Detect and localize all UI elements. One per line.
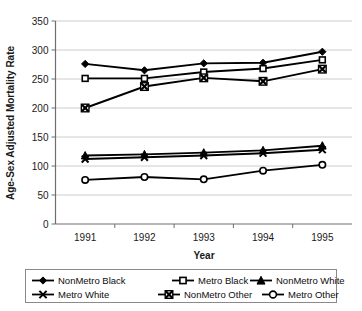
data-point-marker-open-circle <box>270 291 277 298</box>
data-point-marker-open-circle <box>260 167 266 173</box>
data-point-marker-open-circle <box>201 176 207 182</box>
y-tick-label: 300 <box>32 45 49 56</box>
legend-label: Metro White <box>58 289 109 300</box>
x-tick-label: 1994 <box>252 232 275 243</box>
data-point-marker-open-circle <box>141 174 147 180</box>
legend-label: Metro Other <box>288 289 339 300</box>
data-point-marker-open-square <box>319 57 325 63</box>
data-point-marker-boxed-x <box>81 104 89 112</box>
legend-label: Metro Black <box>198 275 248 286</box>
data-point-marker-boxed-x <box>259 78 267 86</box>
y-tick-label: 0 <box>43 219 49 230</box>
chart-canvas: 050100150200250300350 199119921993199419… <box>0 0 362 311</box>
x-axis-title: Year <box>193 250 214 261</box>
data-point-marker-open-circle <box>82 177 88 183</box>
legend-label: NonMetro Black <box>58 275 126 286</box>
y-tick-label: 200 <box>32 103 49 114</box>
data-point-marker-open-square <box>260 66 266 72</box>
data-point-marker-open-square <box>180 277 186 283</box>
y-tick-label: 150 <box>32 132 49 143</box>
x-tick-label: 1992 <box>133 232 156 243</box>
data-point-marker-boxed-x <box>165 291 173 299</box>
data-point-marker-boxed-x <box>319 65 327 73</box>
legend-label: NonMetro White <box>276 275 345 286</box>
legend-item-metro-other[interactable]: Metro Other <box>262 289 339 300</box>
y-tick-label: 100 <box>32 161 49 172</box>
data-point-marker-open-circle <box>319 162 325 168</box>
y-tick-label: 250 <box>32 74 49 85</box>
y-tick-label: 50 <box>37 190 49 201</box>
mortality-rate-line-chart: 050100150200250300350 199119921993199419… <box>0 0 362 311</box>
y-tick-label: 350 <box>32 16 49 27</box>
data-point-marker-open-square <box>142 76 148 82</box>
data-point-marker-open-square <box>82 76 88 82</box>
x-tick-label: 1991 <box>74 232 97 243</box>
legend-label: NonMetro Other <box>184 289 252 300</box>
x-tick-label: 1993 <box>193 232 216 243</box>
legend-item-metro-black[interactable]: Metro Black <box>172 275 248 286</box>
y-axis-title: Age-Sex Adjusted Mortality Rate <box>5 46 16 201</box>
legend-item-nonmetro-other[interactable]: NonMetro Other <box>158 289 252 300</box>
data-point-marker-boxed-x <box>200 74 208 82</box>
x-tick-label: 1995 <box>311 232 334 243</box>
data-point-marker-boxed-x <box>141 83 149 91</box>
